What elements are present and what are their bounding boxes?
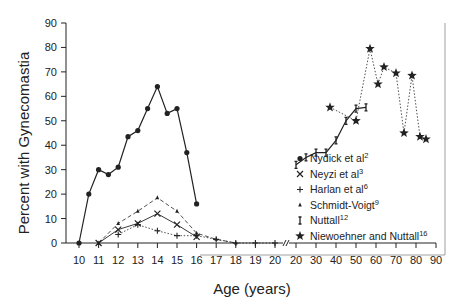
legend-marker xyxy=(299,217,302,224)
star-marker xyxy=(351,116,361,125)
x-tick-label: 50 xyxy=(350,254,362,266)
y-tick-label: 80 xyxy=(45,41,57,53)
y-tick-label: 60 xyxy=(45,90,57,102)
series-niewoehner-and-nuttall xyxy=(325,44,431,143)
data-point xyxy=(174,222,180,228)
x-tick-label: 20 xyxy=(290,254,302,266)
legend-item: Neyzi et al3 xyxy=(297,167,363,180)
legend-item: Harlan et al6 xyxy=(297,182,368,195)
triangle-marker xyxy=(175,209,179,213)
star-marker xyxy=(391,68,401,77)
data-point xyxy=(391,68,401,77)
x-tick-label: 16 xyxy=(190,254,202,266)
legend-marker xyxy=(295,231,305,240)
x-tick-label: 30 xyxy=(310,254,322,266)
x-tick-label: 13 xyxy=(132,254,144,266)
plus-marker xyxy=(272,240,278,246)
legend-item: Nydick et al2 xyxy=(297,151,368,164)
legend-marker xyxy=(297,171,303,177)
legend-item: Nuttall12 xyxy=(299,213,349,226)
bar-marker xyxy=(299,217,302,224)
data-point xyxy=(325,102,335,111)
data-point xyxy=(154,228,160,234)
legend: Nydick et al2Neyzi et al3Harlan et al6Sc… xyxy=(295,151,427,242)
legend-ref-superscript: 16 xyxy=(419,229,427,238)
y-axis-title: Percent with Gynecomastia xyxy=(15,51,32,234)
y-tick-label: 30 xyxy=(45,164,57,176)
data-point xyxy=(125,134,130,139)
bar-marker xyxy=(295,161,298,168)
legend-label: Nuttall12 xyxy=(310,213,348,226)
series-nydick-et-al xyxy=(76,84,199,246)
data-point xyxy=(86,192,91,197)
data-point xyxy=(76,240,81,245)
dot-marker xyxy=(86,192,91,197)
x-tick-label: 90 xyxy=(430,254,442,266)
y-tick-label: 50 xyxy=(45,115,57,127)
star-marker xyxy=(399,128,409,137)
x-tick-label: 20 xyxy=(269,254,281,266)
star-marker xyxy=(325,102,335,111)
legend-item: Niewoehner and Nuttall16 xyxy=(295,229,427,242)
plus-marker xyxy=(174,233,180,239)
legend-label: Schmidt-Voigt9 xyxy=(310,198,379,211)
data-point xyxy=(174,233,180,239)
dot-marker xyxy=(194,201,199,206)
legend-label: Neyzi et al3 xyxy=(310,167,363,180)
data-point xyxy=(165,111,170,116)
axis-break-mark xyxy=(283,240,286,246)
x-tick-label: 40 xyxy=(330,254,342,266)
star-marker xyxy=(295,231,305,240)
data-point xyxy=(379,62,389,71)
y-axis: 0102030405060708090 xyxy=(45,17,66,249)
x-tick-label: 12 xyxy=(112,254,124,266)
legend-marker xyxy=(298,203,302,207)
x-marker xyxy=(297,171,303,177)
data-point xyxy=(415,132,425,141)
y-tick-label: 90 xyxy=(45,17,57,29)
y-tick-label: 10 xyxy=(45,213,57,225)
dot-marker xyxy=(96,167,101,172)
star-marker xyxy=(379,62,389,71)
data-point xyxy=(116,165,121,170)
data-point xyxy=(351,116,361,125)
gynecomastia-chart: 0102030405060708090 10111213141516171819… xyxy=(0,0,465,306)
data-point xyxy=(154,211,160,217)
dot-marker xyxy=(135,128,140,133)
axis-break-mark xyxy=(286,240,289,246)
y-tick-label: 70 xyxy=(45,66,57,78)
x-tick-label: 19 xyxy=(249,254,261,266)
triangle-marker xyxy=(298,203,302,207)
data-point xyxy=(373,79,383,88)
data-point xyxy=(145,106,150,111)
x-tick-label: 11 xyxy=(93,254,104,266)
dot-marker xyxy=(76,240,81,245)
data-point xyxy=(194,201,199,206)
plus-marker xyxy=(297,187,303,193)
dot-marker xyxy=(116,165,121,170)
x-tick-label: 80 xyxy=(410,254,422,266)
x-tick-label: 70 xyxy=(390,254,402,266)
data-point xyxy=(175,209,179,213)
star-marker xyxy=(415,132,425,141)
data-point xyxy=(155,84,160,89)
legend-ref-superscript: 12 xyxy=(340,213,348,222)
dot-marker xyxy=(165,111,170,116)
x-tick-label: 18 xyxy=(230,254,242,266)
dot-marker xyxy=(184,150,189,155)
series-line xyxy=(99,198,236,243)
data-point xyxy=(365,44,375,53)
x-tick-label: 14 xyxy=(151,254,163,266)
data-point xyxy=(399,128,409,137)
legend-label: Niewoehner and Nuttall16 xyxy=(310,229,428,242)
data-point xyxy=(106,172,111,177)
legend-label: Harlan et al6 xyxy=(310,182,368,195)
y-tick-label: 20 xyxy=(45,188,57,200)
data-point xyxy=(184,150,189,155)
x-tick-label: 60 xyxy=(370,254,382,266)
series-neyzi-et-al xyxy=(96,211,200,246)
dot-marker xyxy=(174,106,179,111)
star-marker xyxy=(365,44,375,53)
x-tick-label: 10 xyxy=(73,254,85,266)
dot-marker xyxy=(155,84,160,89)
